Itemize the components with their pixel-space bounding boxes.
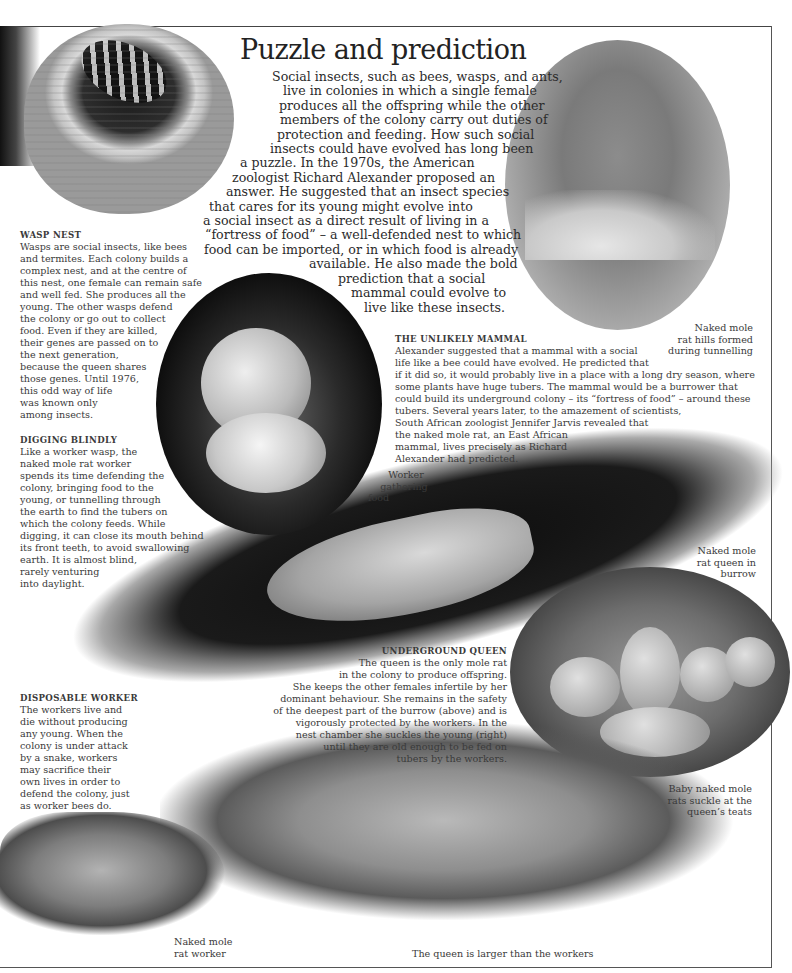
intro-line: answer. He suggested that an insect spec… bbox=[226, 185, 792, 199]
intro-line: that cares for its young might evolve in… bbox=[209, 200, 792, 214]
caption-line: The queen is the only mole rat bbox=[262, 657, 507, 669]
wasp-nest-caption: WASP NEST Wasps are social insects, like… bbox=[20, 229, 202, 421]
intro-line: available. He also made the bold bbox=[309, 257, 792, 271]
caption-line: because the queen shares bbox=[20, 361, 202, 373]
pup bbox=[725, 637, 775, 687]
caption-line: naked mole rat worker bbox=[20, 458, 204, 470]
digging-blindly-caption: DIGGING BLINDLY Like a worker wasp, the … bbox=[20, 434, 204, 590]
intro-line: zoologist Richard Alexander proposed an bbox=[232, 171, 792, 185]
baby-mole-rats-label: Baby naked mole rats suckle at the queen… bbox=[660, 783, 752, 818]
hills-label: Naked mole rat hills formed during tunne… bbox=[648, 322, 753, 357]
queen-larger-label: The queen is larger than the workers bbox=[412, 948, 593, 960]
caption-line: any young. When the bbox=[20, 728, 138, 740]
page-title: Puzzle and prediction bbox=[240, 34, 526, 65]
caption-line: was known only bbox=[20, 397, 202, 409]
label-line: rats suckle at the bbox=[660, 795, 752, 807]
label-line: rat queen in bbox=[672, 557, 756, 569]
label-line: rat hills formed bbox=[648, 334, 753, 346]
caption-line: vigorously protected by the workers. In … bbox=[262, 717, 507, 729]
caption-line: and termites. Each colony builds a bbox=[20, 253, 202, 265]
intro-line: members of the colony carry out duties o… bbox=[280, 113, 792, 127]
caption-line: the colony or go out to collect bbox=[20, 313, 202, 325]
caption-heading: DISPOSABLE WORKER bbox=[20, 692, 138, 704]
caption-line: die without producing bbox=[20, 716, 138, 728]
caption-line: life like a bee could have evolved. He p… bbox=[395, 357, 755, 369]
naked-mole-rat-worker-photo bbox=[0, 812, 225, 942]
caption-heading: UNDERGROUND QUEEN bbox=[262, 645, 507, 657]
caption-line: the next generation, bbox=[20, 349, 202, 361]
caption-line: colony is under attack bbox=[20, 740, 138, 752]
queen-burrow-label: Naked mole rat queen in burrow bbox=[672, 545, 756, 580]
caption-line: complex nest, and at the centre of bbox=[20, 265, 202, 277]
caption-line: as worker bees do. bbox=[20, 800, 138, 812]
caption-line: tubers. Several years later, to the amaz… bbox=[395, 405, 755, 417]
caption-heading: WASP NEST bbox=[20, 229, 202, 241]
intro-line: live like these insects. bbox=[364, 301, 792, 315]
caption-line: own lives in order to bbox=[20, 776, 138, 788]
caption-line: spends its time defending the bbox=[20, 470, 204, 482]
caption-line: South African zoologist Jennifer Jarvis … bbox=[395, 417, 755, 429]
caption-line: its front teeth, to avoid swallowing bbox=[20, 542, 204, 554]
caption-line: Alexander had predicted. bbox=[395, 453, 755, 465]
intro-line: insects could have evolved has long been bbox=[270, 142, 792, 156]
caption-line: food. Even if they are killed, bbox=[20, 325, 202, 337]
caption-line: if it did so, it would probably live in … bbox=[395, 369, 755, 381]
caption-line: among insects. bbox=[20, 409, 202, 421]
caption-line: and well fed. She produces all the bbox=[20, 289, 202, 301]
tuber-food bbox=[206, 413, 326, 493]
caption-line: those genes. Until 1976, bbox=[20, 373, 202, 385]
caption-line: earth. It is almost blind, bbox=[20, 554, 204, 566]
caption-line: Wasps are social insects, like bees bbox=[20, 241, 202, 253]
caption-line: mammal, lives precisely as Richard bbox=[395, 441, 755, 453]
label-line: Naked mole bbox=[648, 322, 753, 334]
caption-line: this odd way of life bbox=[20, 385, 202, 397]
caption-line: their genes are passed on to bbox=[20, 337, 202, 349]
caption-heading: DIGGING BLINDLY bbox=[20, 434, 204, 446]
caption-line: could build its underground colony – its… bbox=[395, 393, 755, 405]
worker-gathering-label: Worker gathering food bbox=[366, 469, 436, 504]
label-line: queen’s teats bbox=[660, 806, 752, 818]
caption-line: The workers live and bbox=[20, 704, 138, 716]
label-line: burrow bbox=[672, 568, 756, 580]
intro-line: Social insects, such as bees, wasps, and… bbox=[272, 70, 792, 84]
caption-line: dominant behaviour. She remains in the s… bbox=[262, 693, 507, 705]
caption-line: tubers by the workers. bbox=[262, 753, 507, 765]
pup bbox=[620, 627, 680, 717]
intro-line: live in colonies in which a single femal… bbox=[283, 84, 792, 98]
caption-line: rarely venturing bbox=[20, 566, 204, 578]
label-line: food bbox=[366, 492, 436, 504]
caption-line: nest chamber she suckles the young (righ… bbox=[262, 729, 507, 741]
label-line: The queen is larger than the workers bbox=[412, 948, 593, 960]
intro-line: protection and feeding. How such social bbox=[277, 128, 792, 142]
caption-line: by a snake, workers bbox=[20, 752, 138, 764]
intro-line: food can be imported, or in which food i… bbox=[204, 243, 792, 257]
caption-line: into daylight. bbox=[20, 578, 204, 590]
caption-line: some plants have huge tubers. The mammal… bbox=[395, 381, 755, 393]
label-line: Baby naked mole bbox=[660, 783, 752, 795]
caption-line: young, or tunnelling through bbox=[20, 494, 204, 506]
disposable-worker-caption: DISPOSABLE WORKER The workers live and d… bbox=[20, 692, 138, 812]
intro-line: “fortress of food” – a well-defended nes… bbox=[205, 228, 792, 242]
caption-line: colony, bringing food to the bbox=[20, 482, 204, 494]
intro-line: a puzzle. In the 1970s, the American bbox=[240, 156, 792, 170]
page-frame-bottom bbox=[0, 967, 772, 968]
label-line: Naked mole bbox=[174, 936, 232, 948]
worker-label: Naked mole rat worker bbox=[174, 936, 232, 959]
intro-line: prediction that a social bbox=[338, 272, 792, 286]
label-line: rat worker bbox=[174, 948, 232, 960]
caption-line: in the colony to produce offspring. bbox=[262, 669, 507, 681]
label-line: Worker bbox=[366, 469, 436, 481]
intro-line: produces all the offspring while the oth… bbox=[279, 99, 792, 113]
label-line: Naked mole bbox=[672, 545, 756, 557]
label-line: during tunnelling bbox=[648, 345, 753, 357]
caption-line: defend the colony, just bbox=[20, 788, 138, 800]
label-line: gathering bbox=[366, 481, 436, 493]
caption-line: the earth to find the tubers on bbox=[20, 506, 204, 518]
caption-line: digging, it can close its mouth behind bbox=[20, 530, 204, 542]
intro-line: mammal could evolve to bbox=[351, 286, 792, 300]
caption-line: young. The other wasps defend bbox=[20, 301, 202, 313]
caption-line: may sacrifice their bbox=[20, 764, 138, 776]
caption-line: which the colony feeds. While bbox=[20, 518, 204, 530]
caption-line: She keeps the other females infertile by… bbox=[262, 681, 507, 693]
caption-line: of the deepest part of the burrow (above… bbox=[262, 705, 507, 717]
